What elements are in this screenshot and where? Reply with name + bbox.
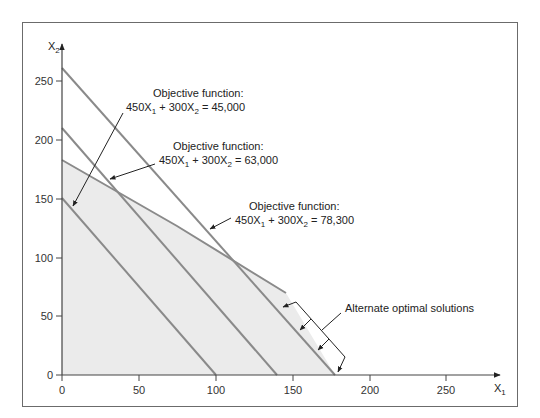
feasible-region	[62, 160, 335, 375]
y-axis-title: X2	[48, 40, 60, 55]
y-tick-label: 250	[35, 75, 53, 87]
arrow-obj3	[210, 218, 231, 229]
x-tick-label: 250	[437, 384, 455, 396]
x-tick-label: 50	[133, 384, 145, 396]
arrow-obj2	[110, 164, 155, 179]
x-tick-label: 0	[59, 384, 65, 396]
y-tick-label: 150	[35, 193, 53, 205]
x-tick-label: 100	[207, 384, 225, 396]
objective-3-equation: 450X1 + 300X2 = 78,300	[235, 214, 354, 229]
y-tick-label: 100	[35, 252, 53, 264]
x-axis-title: X1	[494, 382, 506, 397]
y-ticks	[56, 81, 62, 375]
x-tick-label: 150	[284, 384, 302, 396]
lp-chart: 0 50 100 150 200 250 0 50 100 150 200 25…	[0, 0, 540, 418]
y-tick-label: 50	[41, 310, 53, 322]
y-tick-label: 0	[47, 369, 53, 381]
objective-3-title: Objective function:	[249, 200, 340, 212]
objective-2-equation: 450X1 + 300X2 = 63,000	[159, 154, 278, 169]
y-tick-label: 200	[35, 134, 53, 146]
x-tick-label: 200	[361, 384, 379, 396]
x-ticks	[62, 375, 446, 381]
alternate-optimal-label: Alternate optimal solutions	[345, 302, 475, 314]
objective-1-title: Objective function:	[153, 87, 244, 99]
objective-2-title: Objective function:	[173, 140, 264, 152]
objective-1-equation: 450X1 + 300X2 = 45,000	[126, 101, 245, 116]
